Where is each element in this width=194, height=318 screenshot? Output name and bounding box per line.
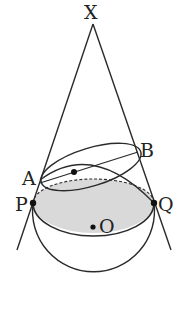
point-p-dot (30, 200, 36, 206)
segment-ab (40, 152, 138, 183)
focus-point (71, 169, 77, 175)
diagram-svg: X B A P Q O (0, 0, 194, 318)
label-o: O (99, 215, 115, 237)
center-o-dot (90, 224, 95, 229)
label-a: A (21, 167, 36, 189)
label-b: B (140, 139, 154, 161)
label-q: Q (158, 193, 174, 215)
point-q-dot (151, 200, 157, 206)
label-p: P (15, 193, 28, 215)
cone-sphere-diagram: X B A P Q O (0, 0, 194, 318)
label-x: X (84, 1, 98, 23)
